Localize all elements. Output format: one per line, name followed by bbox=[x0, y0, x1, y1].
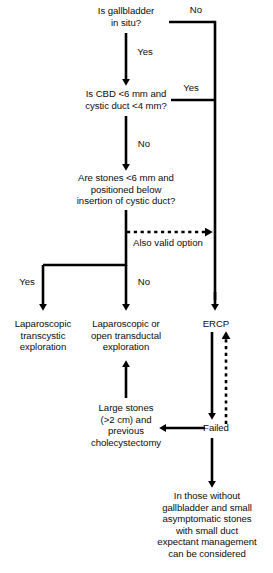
node-ercp: ERCP bbox=[186, 318, 246, 330]
node-stones-position: Are stones <6 mm and positioned below in… bbox=[36, 172, 216, 207]
edge-label-yes-cbd: Yes bbox=[132, 46, 158, 58]
node-laparoscopic-transductal: Laparoscopic or open transductal explora… bbox=[71, 318, 181, 353]
node-gallbladder-in-situ: Is gallbladder in situ? bbox=[61, 5, 191, 28]
node-large-stones: Large stones (>2 cm) and previous cholec… bbox=[71, 402, 181, 448]
edge-label-yes-cbd-small: Yes bbox=[178, 82, 204, 94]
edge-label-no-stones: No bbox=[133, 276, 155, 288]
node-failed: Failed bbox=[191, 422, 241, 434]
edge-label-also-valid-option: Also valid option bbox=[133, 237, 225, 249]
edge-label-no-gallbladder: No bbox=[183, 4, 209, 16]
edge-label-yes-stones: Yes bbox=[14, 276, 40, 288]
node-expectant-management: In those without gallbladder and small a… bbox=[141, 490, 273, 560]
flowchart-diagram: Is gallbladder in situ? Is CBD <6 mm and… bbox=[0, 0, 273, 573]
edge-label-no-cbd: No bbox=[133, 138, 155, 150]
